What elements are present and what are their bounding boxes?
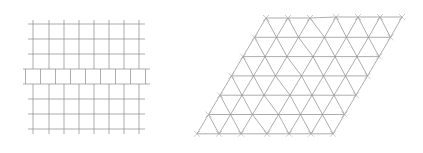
- lattice-bond: [290, 95, 301, 114]
- lattice-bond: [347, 37, 358, 56]
- lattice-bond: [231, 115, 242, 134]
- lattice-bond: [254, 76, 265, 95]
- lattice-bond: [323, 95, 335, 114]
- lattice-bond: [299, 18, 311, 37]
- lattice-bond: [289, 115, 301, 134]
- triangular-lattice-diagram: [0, 0, 423, 153]
- lattice-bond: [369, 37, 380, 56]
- lattice-bond: [232, 76, 243, 95]
- lattice-bond: [219, 115, 231, 134]
- lattice-bond: [232, 57, 244, 76]
- lattice-bond: [380, 17, 391, 37]
- lattice-bond: [287, 57, 302, 76]
- lattice-bond: [288, 18, 299, 37]
- lattice-bond: [379, 37, 391, 56]
- lattice-bond: [276, 76, 291, 95]
- lattice-bond: [356, 76, 368, 95]
- lattice-bond: [324, 76, 335, 95]
- lattice-bond: [391, 17, 403, 37]
- lattice-bond: [231, 95, 243, 114]
- lattice-bond: [277, 37, 288, 56]
- lattice-bond: [242, 95, 253, 114]
- lattice-bond: [264, 76, 276, 95]
- lattice-bond: [325, 37, 336, 56]
- lattice-bond: [333, 115, 345, 134]
- lattice-bond: [334, 95, 345, 114]
- lattice-bond: [335, 57, 346, 76]
- lattice-bond: [253, 115, 268, 134]
- lattice-bond: [255, 18, 267, 37]
- lattice-bond: [265, 57, 276, 76]
- lattice-bond: [209, 95, 221, 114]
- lattice-bond: [311, 115, 323, 134]
- lattice-bond: [358, 17, 369, 37]
- lattice-bond: [255, 37, 266, 56]
- lattice-bond: [267, 115, 279, 134]
- lattice-bond: [209, 115, 220, 134]
- lattice-bond: [299, 37, 314, 56]
- lattice-bond: [264, 95, 279, 114]
- lattice-bond: [310, 18, 325, 37]
- lattice-bond: [302, 76, 313, 95]
- lattice-bond: [290, 76, 302, 95]
- lattice-bond: [346, 76, 357, 95]
- lattice-bond: [346, 57, 358, 76]
- lattice-bond: [243, 37, 255, 56]
- lattice-bond: [220, 76, 232, 95]
- lattice-bond: [357, 57, 368, 76]
- lattice-bond: [220, 95, 231, 114]
- lattice-bond: [301, 95, 313, 114]
- lattice-bond: [313, 57, 324, 76]
- lattice-bond: [325, 17, 337, 37]
- lattice-bond: [241, 115, 253, 134]
- lattice-bond: [302, 57, 314, 76]
- lattice-bond: [347, 17, 359, 37]
- lattice-bond: [323, 115, 334, 134]
- lattice-bond: [312, 95, 323, 114]
- lattice-bond: [357, 37, 369, 56]
- lattice-bond: [276, 57, 288, 76]
- lattice-bond: [266, 18, 277, 37]
- figure-canvas: [0, 0, 423, 153]
- lattice-bond: [242, 76, 254, 95]
- lattice-bond: [334, 76, 346, 95]
- lattice-bond: [345, 95, 357, 114]
- lattice-bond: [335, 37, 347, 56]
- lattice-bond: [254, 57, 266, 76]
- lattice-bond: [313, 37, 325, 56]
- lattice-bond: [312, 76, 324, 95]
- lattice-bond: [253, 95, 265, 114]
- lattice-bond: [279, 95, 291, 114]
- lattice-bond: [368, 57, 380, 76]
- lattice-bond: [369, 17, 381, 37]
- lattice-bond: [265, 37, 277, 56]
- lattice-bond: [301, 115, 312, 134]
- lattice-bond: [279, 115, 290, 134]
- lattice-bond: [277, 18, 289, 37]
- lattice-bond: [243, 57, 254, 76]
- lattice-bond: [324, 57, 336, 76]
- lattice-bond: [287, 37, 299, 56]
- lattice-bond: [197, 115, 209, 134]
- lattice-bond: [336, 17, 347, 37]
- lattice-bond: [310, 17, 336, 18]
